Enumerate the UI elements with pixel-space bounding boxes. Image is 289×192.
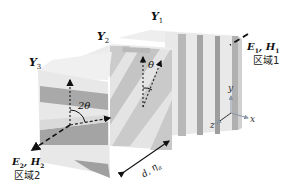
angle-label-2theta: 2θ xyxy=(78,101,90,111)
slab-y3 xyxy=(38,52,112,178)
region-2-label: 区域2 xyxy=(14,171,40,181)
region-1-label: 区域1 xyxy=(253,56,279,66)
slab-label-y2: Y2 xyxy=(97,31,109,45)
input-field-label: E1, H1 xyxy=(247,42,279,54)
angle-label-theta: θ xyxy=(148,60,154,70)
axis-label-z: z xyxy=(210,121,215,130)
axis-label-y: y xyxy=(228,84,233,93)
axis-label-x: x xyxy=(250,115,255,124)
slab-label-y3: Y3 xyxy=(29,57,41,71)
output-field-label: E2, H2 xyxy=(12,157,44,169)
slab-label-y1: Y1 xyxy=(151,11,163,25)
